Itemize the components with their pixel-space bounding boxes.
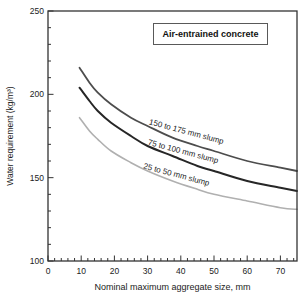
x-tick-label: 70 (276, 266, 286, 276)
plot-border (48, 11, 297, 261)
x-tick-label: 30 (143, 266, 153, 276)
x-tick-label: 20 (110, 266, 120, 276)
x-tick-label: 10 (76, 266, 86, 276)
x-tick-label: 40 (176, 266, 186, 276)
x-tick-label: 0 (46, 266, 51, 276)
y-axis-title: Water requirement (kg/m³) (5, 86, 15, 186)
y-tick-label: 150 (30, 173, 44, 183)
x-axis-title: Nominal maximum aggregate size, mm (94, 282, 250, 292)
curve-label-3: 25 to 50 mm slump (142, 162, 211, 188)
curves (80, 68, 298, 210)
curve-labels: 150 to 175 mm slump75 to 100 mm slump25 … (142, 117, 225, 188)
x-tick-label: 60 (242, 266, 252, 276)
axis-ticks (48, 11, 294, 261)
y-tick-label: 250 (30, 6, 44, 16)
chart-canvas: 150 to 175 mm slump75 to 100 mm slump25 … (0, 0, 308, 306)
y-tick-label: 200 (30, 89, 44, 99)
chart-figure: 150 to 175 mm slump75 to 100 mm slump25 … (0, 0, 308, 306)
annotation-box: Air-entrained concrete (153, 23, 268, 45)
annotation-label: Air-entrained concrete (162, 29, 258, 39)
x-tick-label: 50 (209, 266, 219, 276)
y-tick-label: 100 (30, 256, 44, 266)
